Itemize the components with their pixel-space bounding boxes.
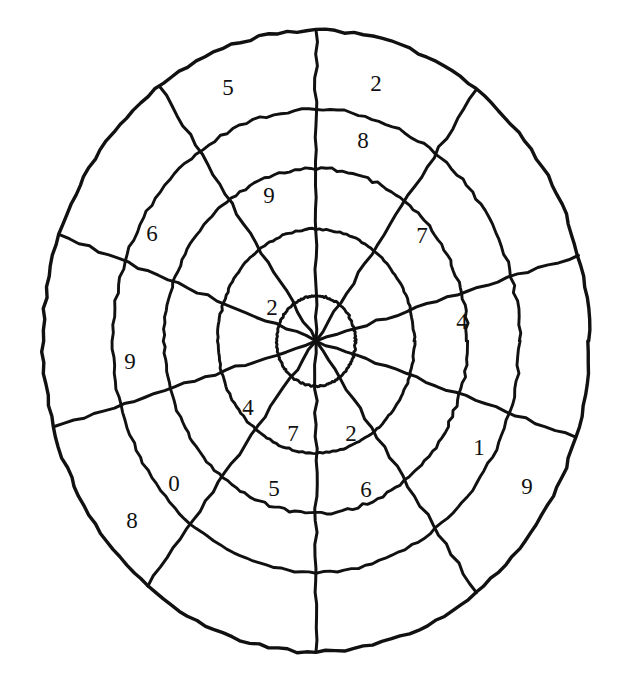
label-ring3-upper: 9 [263,183,275,208]
label-ring3-right: 7 [416,223,428,248]
polar-grid-svg: 528967249472105698 [0,0,625,689]
label-ring4-lower-right: 1 [473,435,485,460]
label-ring5-upper-right: 2 [370,71,382,96]
label-ring5-upper-left: 5 [222,75,234,100]
radial-spoke-5 [148,341,316,586]
radial-number-wheel-figure: 528967249472105698 [0,0,625,689]
label-ring5-lower-left: 8 [126,508,138,533]
radial-spoke-1 [315,30,318,341]
label-ring3-far-right: 4 [456,309,468,334]
radial-spoke-9 [316,255,578,341]
label-ring2-lower: 7 [287,421,299,446]
radial-spoke-7 [316,341,476,593]
label-ring2-upper-left: 2 [266,295,278,320]
label-ring4-left: 6 [146,221,158,246]
radial-spokes-group [54,30,579,652]
label-ring4-upper-right: 8 [357,128,369,153]
label-ring4-lower-left: 0 [168,471,180,496]
label-ring3-lower: 5 [268,476,280,501]
label-ring4-far-left: 9 [124,349,136,374]
sector-digit-labels-group: 528967249472105698 [124,71,533,533]
radial-spoke-4 [54,341,316,427]
label-ring2-lower-left: 4 [242,395,254,420]
label-ring3-lower-right: 6 [360,477,372,502]
label-ring5-lower-right: 9 [521,474,533,499]
label-ring2-lower-right: 2 [345,421,357,446]
